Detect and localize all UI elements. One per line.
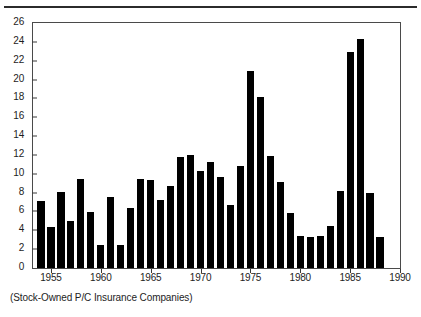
y-tick-label: 24 (13, 36, 24, 46)
y-tick-label: 14 (13, 130, 24, 140)
y-tick-label: 26 (13, 17, 24, 27)
bar (366, 193, 373, 268)
plot-area (33, 23, 400, 268)
y-axis: 02468101214161820222426 (0, 22, 30, 269)
bar (267, 156, 274, 268)
x-tick-label: 1955 (40, 272, 61, 283)
bar (227, 205, 234, 268)
y-tick-label: 6 (19, 205, 24, 215)
y-tick-label: 10 (13, 168, 24, 178)
x-tick-label: 1960 (90, 272, 111, 283)
bar (376, 237, 383, 268)
bar (187, 155, 194, 268)
y-tick-label: 18 (13, 92, 24, 102)
bar (107, 197, 114, 268)
x-tick-label: 1980 (290, 272, 311, 283)
bar (327, 226, 334, 268)
bar (77, 179, 84, 268)
bar (157, 200, 164, 268)
bar (287, 213, 294, 268)
bar (147, 180, 154, 268)
bar (117, 245, 124, 268)
y-tick-label: 20 (13, 74, 24, 84)
y-tick-label: 4 (19, 224, 24, 234)
bar (137, 179, 144, 268)
x-tick-label: 1990 (389, 272, 410, 283)
bar (37, 201, 44, 268)
x-tick-label: 1985 (339, 272, 360, 283)
chart-caption: (Stock-Owned P/C Insurance Companies) (10, 292, 193, 304)
bar (247, 71, 254, 268)
x-axis: 19551960196519701975198019851990 (0, 272, 421, 286)
bar (47, 227, 54, 268)
bar (307, 237, 314, 268)
bar (347, 52, 354, 268)
bar (297, 236, 304, 268)
y-tick-label: 22 (13, 55, 24, 65)
bar (357, 39, 364, 268)
bar (57, 192, 64, 268)
bar (277, 182, 284, 268)
bar (337, 191, 344, 268)
x-tick-label: 1965 (140, 272, 161, 283)
y-tick-label: 12 (13, 149, 24, 159)
y-tick-label: 0 (19, 262, 24, 272)
y-tick-label: 16 (13, 111, 24, 121)
bar (97, 245, 104, 268)
bar (87, 212, 94, 268)
y-tick-label: 8 (19, 187, 24, 197)
bar (237, 166, 244, 268)
bar (257, 97, 264, 269)
bar (217, 177, 224, 268)
y-tick-label: 2 (19, 243, 24, 253)
x-tick-label: 1975 (240, 272, 261, 283)
bar (177, 157, 184, 268)
bar (197, 171, 204, 268)
bar (167, 186, 174, 268)
bar (67, 221, 74, 268)
header-rule (4, 6, 417, 8)
bar (127, 208, 134, 268)
bar (207, 162, 214, 268)
bar (317, 236, 324, 268)
bar-chart-figure: 02468101214161820222426 1955196019651970… (0, 0, 421, 317)
x-tick-label: 1970 (190, 272, 211, 283)
